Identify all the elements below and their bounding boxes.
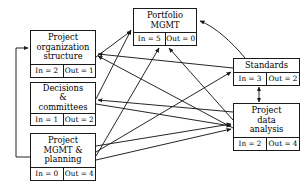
node-stats: In = 2 Out = 1 [31,64,95,77]
node-title: Project MGMT & planning [31,134,95,167]
edge-pos-to-portfolio [96,31,131,57]
node-in-count: In = 1 [31,114,64,126]
node-out-count: Out = 1 [64,65,96,77]
node-stats: In = 2 Out = 4 [234,137,299,150]
node-out-count: Out = 4 [64,168,96,180]
node-stats: In = 1 Out = 2 [31,113,95,126]
node-title: Project data analysis [234,104,299,137]
node-project-mgmt-planning[interactable]: Project MGMT & planning In = 0 Out = 4 [30,133,96,181]
node-out-count: Out = 4 [267,138,299,150]
node-out-count: Out = 2 [64,114,96,126]
edge-planning-to-data [96,129,231,160]
node-in-count: In = 2 [234,138,267,150]
node-title: Portfolio MGMT [134,9,196,32]
node-title: Decisions & committees [31,83,95,113]
edge-planning-to-standards [96,72,231,152]
node-portfolio-mgmt[interactable]: Portfolio MGMT In = 5 Out = 0 [133,8,197,46]
edge-standards-to-portfolio [200,21,245,58]
edge-planning-to-portfolio [96,48,159,156]
node-decisions-committees[interactable]: Decisions & committees In = 1 Out = 2 [30,82,96,126]
node-title: Standards [234,59,299,72]
node-project-data-analysis[interactable]: Project data analysis In = 2 Out = 4 [233,103,300,151]
edge-decisions-to-data [96,104,231,126]
edge-planning-to-data-secondary [96,124,231,146]
node-stats: In = 5 Out = 0 [134,32,196,45]
edge-planning-to-pos [16,48,30,157]
node-in-count: In = 0 [31,168,64,180]
node-stats: In = 3 Out = 2 [234,72,299,85]
node-in-count: In = 3 [234,73,267,85]
node-project-organization-structure[interactable]: Project organization structure In = 2 Ou… [30,30,96,78]
node-in-count: In = 2 [31,65,64,77]
node-standards[interactable]: Standards In = 3 Out = 2 [233,58,300,86]
node-in-count: In = 5 [134,33,166,45]
dependency-diagram: Project organization structure In = 2 Ou… [0,0,308,190]
node-out-count: Out = 0 [166,33,197,45]
edge-data-to-decisions [98,100,233,112]
node-stats: In = 0 Out = 4 [31,167,95,180]
node-out-count: Out = 2 [267,73,299,85]
node-title: Project organization structure [31,31,95,64]
edge-standards-to-pos [98,54,233,68]
